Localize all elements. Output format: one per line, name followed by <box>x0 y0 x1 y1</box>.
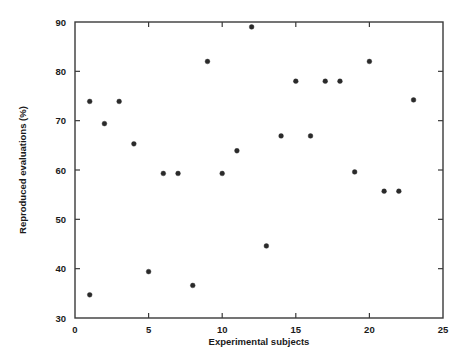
y-tick-label: 30 <box>55 313 66 324</box>
data-point <box>117 99 122 104</box>
x-axis-ticks <box>149 22 370 318</box>
data-point <box>176 171 181 176</box>
x-tick-label: 5 <box>146 324 152 335</box>
y-tick-label: 60 <box>55 165 66 176</box>
x-tick-label: 10 <box>217 324 228 335</box>
y-tick-label: 80 <box>55 66 66 77</box>
data-point <box>352 170 357 175</box>
data-point <box>87 99 92 104</box>
data-point <box>411 98 416 103</box>
data-point <box>396 189 401 194</box>
x-axis-tick-labels: 0510152025 <box>72 324 449 335</box>
y-tick-label: 50 <box>55 214 66 225</box>
data-point <box>279 134 284 139</box>
x-tick-label: 0 <box>72 324 77 335</box>
plot-canvas: 0510152025 30405060708090 Experimental s… <box>0 0 472 355</box>
y-axis-ticks <box>75 71 443 268</box>
data-point <box>190 283 195 288</box>
x-tick-label: 15 <box>291 324 302 335</box>
y-axis-tick-labels: 30405060708090 <box>55 17 66 324</box>
plot-box <box>75 22 443 318</box>
data-point <box>205 59 210 64</box>
data-point <box>87 292 92 297</box>
y-axis-title: Reproduced evaluations (%) <box>17 106 28 234</box>
data-point-group <box>87 25 416 298</box>
data-point <box>249 25 254 30</box>
x-axis-title: Experimental subjects <box>209 336 310 347</box>
data-point <box>382 189 387 194</box>
y-tick-label: 90 <box>55 17 66 28</box>
data-point <box>146 269 151 274</box>
data-point <box>323 79 328 84</box>
data-point <box>102 121 107 126</box>
plot-frame <box>75 22 443 318</box>
data-point <box>131 141 136 146</box>
data-point <box>367 59 372 64</box>
scatter-plot-figure: 0510152025 30405060708090 Experimental s… <box>0 0 472 355</box>
data-point <box>293 79 298 84</box>
y-tick-label: 40 <box>55 263 66 274</box>
data-point <box>235 148 240 153</box>
data-point <box>308 134 313 139</box>
data-point <box>264 244 269 249</box>
x-tick-label: 20 <box>364 324 375 335</box>
x-tick-label: 25 <box>438 324 449 335</box>
y-tick-label: 70 <box>55 115 66 126</box>
data-point <box>338 79 343 84</box>
data-point <box>220 171 225 176</box>
data-point <box>161 171 166 176</box>
